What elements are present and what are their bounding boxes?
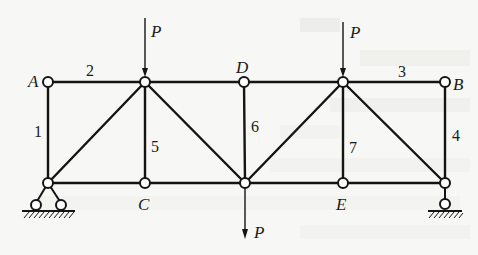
member-diagonal-1 — [48, 82, 145, 183]
truss-svg: A D B C E 1 2 3 4 5 6 7 P P P — [0, 0, 478, 255]
label-member-3: 3 — [398, 63, 406, 80]
node-D — [239, 77, 249, 87]
load-arrow-bottom-middle — [242, 188, 248, 239]
label-member-6: 6 — [251, 118, 259, 135]
node-C — [140, 178, 150, 188]
left-support-roller-1 — [31, 200, 41, 210]
node-top-2 — [140, 77, 150, 87]
label-load-top-right: P — [349, 23, 360, 42]
node-A — [43, 77, 53, 87]
label-node-B: B — [453, 75, 464, 94]
label-node-D: D — [235, 58, 249, 77]
load-arrow-top-left — [142, 18, 148, 77]
node-bottom-middle — [240, 178, 250, 188]
node-bottom-left — [43, 178, 53, 188]
left-support-roller-2 — [56, 200, 66, 210]
label-member-2: 2 — [86, 62, 94, 79]
node-E — [338, 178, 348, 188]
node-B — [440, 77, 450, 87]
load-arrow-top-right — [340, 22, 346, 77]
label-member-4: 4 — [452, 127, 460, 144]
label-load-top-left: P — [150, 22, 161, 41]
node-bottom-right — [440, 178, 450, 188]
member-6-vertical — [244, 82, 245, 183]
node-top-4 — [338, 77, 348, 87]
right-support-roller — [440, 199, 450, 209]
label-member-7: 7 — [349, 139, 357, 156]
label-member-1: 1 — [34, 123, 42, 140]
label-member-5: 5 — [151, 138, 159, 155]
label-node-C: C — [138, 195, 150, 214]
label-node-A: A — [27, 72, 39, 91]
right-ground-hatch — [429, 212, 463, 218]
label-node-E: E — [335, 195, 347, 214]
truss-diagram: A D B C E 1 2 3 4 5 6 7 P P P — [0, 0, 478, 255]
member-diagonal-2 — [145, 82, 245, 183]
left-ground-hatch — [24, 212, 74, 218]
label-load-bottom-middle: P — [253, 223, 264, 242]
